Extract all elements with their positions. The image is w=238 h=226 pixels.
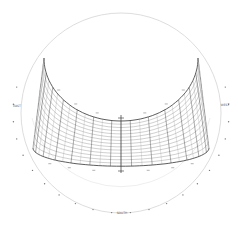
east-label: EAST	[13, 104, 21, 108]
west-label: WEST	[221, 103, 230, 107]
sun-path-svg	[0, 0, 238, 226]
sun-path-diagram: EAST WEST SOUTH	[0, 0, 238, 226]
south-label: SOUTH	[117, 211, 128, 215]
horizon-circle	[21, 13, 221, 213]
